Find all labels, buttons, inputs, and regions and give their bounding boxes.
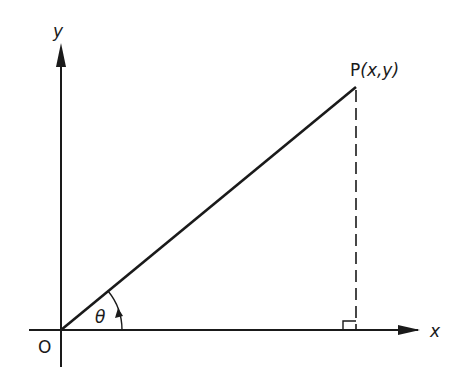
y-axis-label: y xyxy=(52,21,64,41)
point-label: P(x,y) xyxy=(350,60,399,80)
polar-coordinate-diagram: y x O θ P(x,y) xyxy=(0,0,462,382)
angle-arc xyxy=(108,291,122,330)
right-angle-marker xyxy=(343,321,356,330)
y-axis-arrow-icon xyxy=(56,43,66,67)
point-coords: (x,y) xyxy=(360,60,399,80)
point-name: P xyxy=(350,60,360,80)
angle-label: θ xyxy=(95,307,106,327)
x-axis-label: x xyxy=(429,321,441,341)
x-axis-arrow-icon xyxy=(398,325,420,335)
radius-line-op xyxy=(61,87,356,330)
origin-label: O xyxy=(38,337,51,357)
